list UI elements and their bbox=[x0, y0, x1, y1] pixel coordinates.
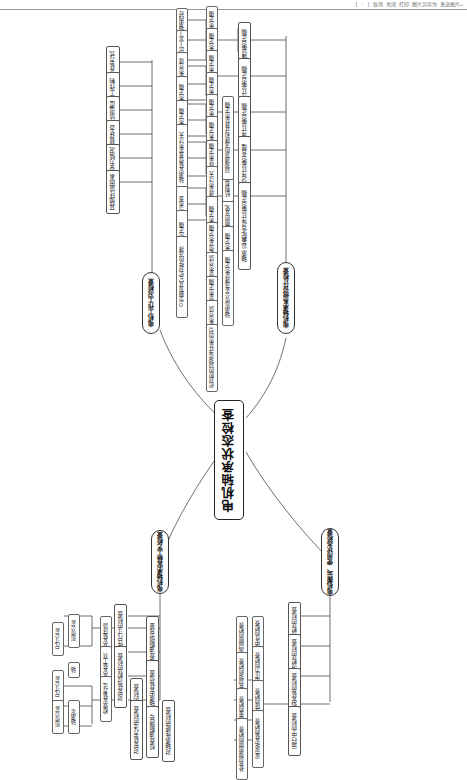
node-b3-sub[interactable]: 尺寸公差 bbox=[52, 622, 64, 656]
node-b2-child[interactable]: 轴承公差配合设计是否正确 bbox=[238, 182, 251, 270]
node-b3-sub[interactable]: 尺寸公差 bbox=[52, 670, 64, 704]
branch-node-install-process[interactable]: 电机轴承安装工艺检查 bbox=[151, 530, 169, 594]
branch-label: 电机搬运、使用状态检查 bbox=[327, 529, 333, 595]
node-b3-sub[interactable]: 检查安装方法 bbox=[100, 676, 112, 722]
branch-label: 电机工作工况检查 bbox=[148, 279, 154, 327]
branch-node-transport-use[interactable]: 电机搬运、使用状态检查 bbox=[321, 528, 339, 596]
root-node-label: 电机轴承状态检查 bbox=[223, 408, 236, 512]
node-label: 工作制 bbox=[110, 78, 116, 96]
node-b3-child[interactable]: 对安装过程的检查 bbox=[114, 646, 127, 708]
node-b2-leaf[interactable]: 轴承安装位置是否过大 bbox=[176, 124, 188, 192]
node-b2-leaf[interactable]: O型圈及其它密封件的选择 bbox=[176, 236, 188, 318]
node-b4-sub[interactable]: 皮带轮安装的检查 bbox=[252, 710, 264, 768]
branch-label: 电机轴承系统设计检查 bbox=[283, 268, 289, 328]
node-label: 形位公差 bbox=[71, 621, 76, 641]
branch-node-work-condition[interactable]: 电机工作工况检查 bbox=[142, 272, 160, 334]
node-b2-sub[interactable]: 轴承形位公差选择是否正确 bbox=[222, 250, 234, 326]
node-label: 对轴承性能的检查 bbox=[166, 707, 172, 755]
node-label: 皮带轮安装的检查 bbox=[255, 719, 260, 759]
node-b2-sub[interactable]: 润滑通道的选择和计算是否正确 bbox=[222, 96, 234, 180]
node-b4-sub[interactable]: 补充润滑周期的检查 bbox=[236, 718, 248, 780]
node-b4-child[interactable]: 运行中的检查 bbox=[288, 706, 301, 756]
node-b2-sub[interactable]: 密封腔的润滑设计是否均匀 bbox=[206, 324, 218, 392]
node-label: 轴承室 bbox=[71, 710, 76, 725]
node-label: 其他环境因素 bbox=[110, 174, 116, 210]
node-b3-sub[interactable]: 轴 bbox=[68, 662, 80, 678]
node-label: 补充润滑周期的检查 bbox=[239, 727, 244, 772]
node-label: 轴承内径 bbox=[179, 12, 184, 32]
node-label: 润滑通道的选择和计算是否正确 bbox=[225, 103, 230, 173]
node-b3-child[interactable]: 对轴承性能的检查 bbox=[162, 700, 175, 762]
node-b3-child[interactable]: 对安装方法的检查 bbox=[130, 700, 143, 760]
node-label: O型圈及其它密封件的选择 bbox=[179, 247, 184, 308]
node-b3-sub[interactable]: 形位公差 bbox=[52, 700, 64, 734]
node-label: 尺寸公差 bbox=[55, 629, 60, 649]
branch-label: 电机轴承安装工艺检查 bbox=[157, 532, 163, 592]
node-label: 检查油脂牌号 bbox=[150, 714, 156, 750]
node-b1-child[interactable]: 其他环境因素 bbox=[106, 170, 120, 214]
node-label: 轴承公差配合设计是否正确 bbox=[242, 190, 248, 262]
node-b3-sub[interactable]: 形位公差 bbox=[68, 614, 80, 648]
node-label: 对安装方法的检查 bbox=[134, 706, 140, 754]
node-label: 轴承形位公差选择是否正确 bbox=[225, 258, 230, 318]
node-b3-sub[interactable]: 轴承室 bbox=[68, 700, 80, 734]
node-label: 密封腔的润滑设计是否均匀 bbox=[209, 328, 214, 388]
node-label: 对安装过程的检查 bbox=[118, 653, 124, 701]
node-label: 检查油脂填充量 bbox=[150, 623, 156, 665]
node-label: 检查安装方法 bbox=[103, 684, 108, 714]
node-label: 轴 bbox=[71, 668, 76, 673]
node-label: 轴承安装位置是否过大 bbox=[179, 133, 184, 183]
node-label: 尺寸公差 bbox=[55, 677, 60, 697]
branch-node-system-design[interactable]: 电机轴承系统设计检查 bbox=[277, 262, 295, 334]
node-label: 形位公差 bbox=[55, 707, 60, 727]
node-b3-child[interactable]: 检查油脂牌号 bbox=[146, 706, 159, 758]
node-label: 运行中的检查 bbox=[292, 713, 298, 749]
root-node[interactable]: 电机轴承状态检查 bbox=[214, 400, 244, 520]
